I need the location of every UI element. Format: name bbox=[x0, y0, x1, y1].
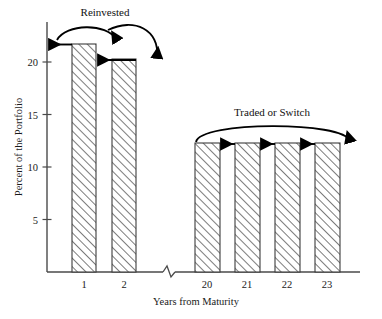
bar-year-1 bbox=[72, 44, 96, 272]
bar-group-traded bbox=[195, 143, 340, 272]
x-tick-label-2: 2 bbox=[121, 279, 126, 290]
x-tick-label-21: 21 bbox=[242, 279, 253, 290]
y-tick-label-15: 15 bbox=[28, 110, 39, 121]
y-axis-title: Percent of the Portfolio bbox=[13, 98, 24, 196]
x-tick-label-1: 1 bbox=[81, 279, 86, 290]
curve-arrow-bar2 bbox=[108, 25, 157, 57]
chart-canvas: 20 15 10 5 Percent of the Portfolio 1 2 … bbox=[0, 0, 382, 319]
y-tick-label-5: 5 bbox=[33, 215, 38, 226]
bar-year-23 bbox=[315, 143, 340, 272]
y-tick-label-10: 10 bbox=[28, 162, 39, 173]
y-tick-label-20: 20 bbox=[28, 57, 39, 68]
x-tick-label-20: 20 bbox=[202, 279, 213, 290]
curve-arrow-traded-group bbox=[196, 126, 350, 142]
x-tick-label-22: 22 bbox=[282, 279, 293, 290]
x-axis-title: Years from Maturity bbox=[153, 296, 240, 307]
bar-year-21 bbox=[235, 143, 260, 272]
annotation-label-traded: Traded or Switch bbox=[234, 106, 310, 118]
bar-year-22 bbox=[275, 143, 300, 272]
annotation-arrows-reinvested bbox=[50, 25, 157, 60]
bar-year-2 bbox=[112, 59, 136, 272]
annotation-arrows-traded bbox=[196, 126, 350, 144]
bar-year-20 bbox=[195, 143, 220, 272]
bar-group-reinvested bbox=[72, 44, 136, 272]
axis-break-icon bbox=[163, 266, 175, 277]
annotation-label-reinvested: Reinvested bbox=[81, 6, 130, 18]
bar-chart-figure: 20 15 10 5 Percent of the Portfolio 1 2 … bbox=[0, 0, 382, 319]
x-tick-label-23: 23 bbox=[322, 279, 333, 290]
